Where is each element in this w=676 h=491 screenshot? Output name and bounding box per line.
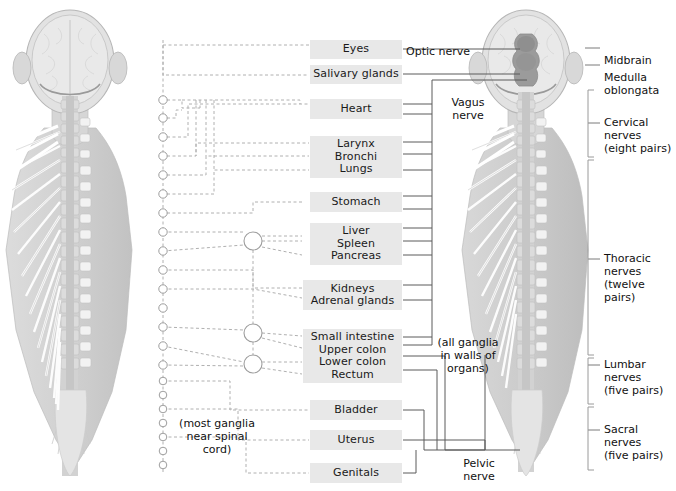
- organ-box-salivary-glands[interactable]: Salivary glands: [310, 65, 402, 84]
- heart-connector: [182, 100, 309, 104]
- right-brainstem: [513, 34, 540, 86]
- vagus-nerve-text-1: Vagus: [451, 96, 484, 109]
- pelvic-nerve-text-2: nerve: [463, 470, 495, 483]
- path-to-salivary: [163, 45, 309, 75]
- cervical-nerves-label: Cervical nerves (eight pairs): [604, 103, 676, 155]
- right-midbrain-node: [517, 36, 535, 52]
- most-ganglia-note: (most ganglia near spinal cord): [172, 404, 262, 456]
- vagus-nerve-label: Vagus nerve: [440, 83, 496, 122]
- lumbar-text-3: (five pairs): [604, 384, 663, 397]
- sacral-text-1: Sacral: [604, 423, 638, 436]
- lumbar-text-1: Lumbar: [604, 358, 646, 371]
- left-figure-group: [6, 10, 132, 476]
- celiac-ganglion: [244, 232, 262, 250]
- optic-nerve-label: Optic nerve: [406, 32, 496, 58]
- left-nerve-fan: [12, 132, 60, 410]
- organ-label-pancreas: Pancreas: [331, 250, 381, 263]
- lungs-path: [167, 170, 309, 194]
- medulla-text-1: Medulla: [604, 71, 647, 84]
- prevertebral-ganglia: [244, 232, 262, 373]
- bracket-thoracic: [588, 160, 594, 355]
- organ-box-airway[interactable]: Larynx Bronchi Lungs: [310, 136, 402, 178]
- right-brain-gyri: [498, 28, 554, 74]
- pelvic-rectum: [403, 370, 437, 450]
- kidney-path-a: [163, 270, 302, 288]
- thoracic-text-2: nerves: [604, 265, 641, 278]
- thoracic-text-1: Thoracic: [604, 252, 651, 265]
- sacral-text-3: (five pairs): [604, 449, 663, 462]
- left-neck: [52, 96, 88, 146]
- pelvic-nerve-label: Pelvic nerve: [452, 444, 506, 483]
- most-ganglia-text-2: near spinal: [186, 430, 247, 443]
- sympathetic-chain-ganglia: [159, 96, 167, 469]
- splanchnic-upper-2: [163, 245, 244, 251]
- sacral-nerves-label: Sacral nerves (five pairs): [604, 410, 676, 462]
- bracket-lumbar: [588, 358, 594, 404]
- left-cerebellum: [40, 84, 100, 95]
- most-ganglia-text-3: cord): [203, 443, 231, 456]
- right-cauda-equina: [514, 392, 540, 464]
- organ-label-bladder: Bladder: [334, 404, 377, 417]
- right-cranial-vault: [488, 15, 564, 105]
- left-sacrum: [55, 390, 87, 476]
- heart-branch-b: [167, 110, 182, 118]
- organ-box-kidneys-adrenal[interactable]: Kidneys Adrenal glands: [303, 280, 402, 310]
- organ-box-genitals[interactable]: Genitals: [310, 463, 402, 483]
- left-cauda-equina: [52, 392, 90, 464]
- organ-box-intestine-colon-rectum[interactable]: Small intestine Upper colon Lower colon …: [303, 329, 402, 383]
- celiac-to-liver-c: [262, 247, 302, 255]
- all-ganglia-text-1: (all ganglia: [437, 336, 498, 349]
- heart-connector-2: [167, 104, 300, 137]
- lumbar-nerves-label: Lumbar nerves (five pairs): [604, 345, 676, 397]
- left-brachial-plexus: [8, 126, 58, 176]
- right-vertebrae: [517, 100, 535, 369]
- medulla-oblongata-label: Medulla oblongata: [604, 58, 676, 97]
- organ-box-stomach[interactable]: Stomach: [310, 192, 402, 212]
- right-sacrum: [511, 390, 543, 476]
- diagram-canvas: Eyes Salivary glands Heart Larynx Bronch…: [0, 0, 676, 491]
- right-figure-group: [462, 10, 588, 476]
- organ-label-heart: Heart: [340, 103, 371, 116]
- right-vertebral-column: [518, 92, 534, 472]
- bronchi-path: [167, 156, 309, 175]
- right-medulla-node: [516, 53, 536, 71]
- stomach-path: [167, 202, 302, 213]
- right-torso: [462, 128, 588, 468]
- left-nerve-roots-right: [80, 118, 91, 367]
- organ-box-eyes[interactable]: Eyes: [310, 40, 402, 59]
- right-cerebellum: [496, 84, 556, 95]
- pelvic-genitals: [403, 450, 416, 473]
- cervical-text-3: (eight pairs): [604, 142, 671, 155]
- left-ear-r: [109, 52, 127, 84]
- organ-label-lungs: Lungs: [339, 163, 372, 176]
- mesenteric-upper: [163, 327, 244, 330]
- left-nerve-fan-outline: [12, 132, 60, 376]
- cervical-text-2: nerves: [604, 129, 641, 142]
- left-cranial-vault: [32, 15, 108, 105]
- heart-branch-a: [167, 100, 200, 108]
- bracket-sacral: [588, 407, 594, 470]
- organ-label-rectum: Rectum: [331, 369, 374, 382]
- organ-label-small-intestine: Small intestine: [311, 331, 395, 344]
- organ-box-uterus[interactable]: Uterus: [310, 430, 402, 450]
- right-nerve-roots: [536, 118, 547, 367]
- right-neck: [508, 96, 544, 146]
- all-ganglia-text-3: organs): [447, 362, 489, 375]
- left-vertebrae: [61, 100, 79, 369]
- right-brachial-plexus: [464, 126, 514, 176]
- right-nerve-fan-outline: [468, 132, 516, 348]
- cervical-text-1: Cervical: [604, 116, 648, 129]
- mesenteric-to-small-intestine: [262, 333, 302, 336]
- organ-box-liver-spleen-pancreas[interactable]: Liver Spleen Pancreas: [310, 223, 402, 265]
- rectum-path: [262, 368, 302, 374]
- left-torso: [6, 128, 132, 468]
- left-brain-gyri: [42, 28, 98, 90]
- right-spinal-cord: [522, 92, 530, 392]
- organ-box-heart[interactable]: Heart: [310, 99, 402, 119]
- left-vertebral-column: [62, 96, 78, 476]
- kidney-path-b: [163, 289, 302, 298]
- organ-box-bladder[interactable]: Bladder: [310, 400, 402, 420]
- organ-label-lower-colon: Lower colon: [319, 356, 386, 369]
- right-ear-r: [565, 52, 583, 84]
- superior-mesenteric-ganglion: [244, 324, 262, 342]
